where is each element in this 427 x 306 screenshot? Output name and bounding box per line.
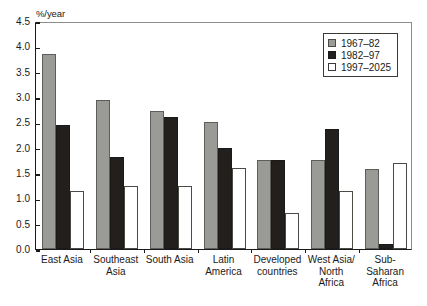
- x-axis-group-separator: [251, 249, 252, 253]
- bar: [311, 160, 325, 249]
- x-axis-category-label: South Asia: [143, 254, 197, 266]
- bar: [42, 54, 56, 249]
- bar: [325, 129, 339, 249]
- x-axis-category-label: Sub- Saharan Africa: [358, 254, 412, 289]
- legend-label: 1982–97: [341, 50, 380, 61]
- bar: [365, 169, 379, 249]
- bar: [379, 244, 393, 249]
- bar-chart-figure: %/year 0.00.51.01.52.02.53.03.54.04.5 Ea…: [0, 0, 427, 306]
- bar: [232, 168, 246, 249]
- legend-label: 1997–2025: [341, 62, 391, 73]
- y-axis-tick-mark: [36, 73, 40, 74]
- y-axis-unit-label: %/year: [36, 8, 65, 19]
- x-axis-category-label: East Asia: [35, 254, 89, 266]
- legend-item: 1967–82: [328, 37, 391, 49]
- x-axis-category-label: Developed countries: [250, 254, 304, 277]
- y-axis-tick-mark: [36, 174, 40, 175]
- bar: [110, 157, 124, 249]
- x-axis-group-separator: [359, 249, 360, 253]
- x-axis-category-label: Latin America: [197, 254, 251, 277]
- bar: [150, 111, 164, 249]
- bar: [285, 213, 299, 249]
- y-axis-tick-mark: [36, 22, 40, 23]
- bar: [178, 186, 192, 249]
- y-axis-tick-label: 4.0: [0, 41, 30, 52]
- y-axis-tick-label: 2.5: [0, 117, 30, 128]
- bar: [56, 125, 70, 249]
- y-axis-tick-mark: [36, 149, 40, 150]
- x-axis-group-separator: [144, 249, 145, 253]
- y-axis-tick-label: 4.5: [0, 16, 30, 27]
- bar: [393, 163, 407, 249]
- bar: [218, 148, 232, 249]
- bar: [96, 100, 110, 249]
- legend-swatch-1982-97-icon: [328, 51, 336, 59]
- y-axis-tick-label: 3.5: [0, 67, 30, 78]
- x-axis-category-label: West Asia/ North Africa: [304, 254, 358, 289]
- y-axis-tick-mark: [36, 48, 40, 49]
- y-axis-tick-mark: [36, 250, 40, 251]
- y-axis-tick-mark: [36, 225, 40, 226]
- bar: [339, 191, 353, 249]
- y-axis-tick-label: 1.5: [0, 168, 30, 179]
- y-axis-tick-label: 1.0: [0, 193, 30, 204]
- y-axis-tick-mark: [36, 98, 40, 99]
- y-axis-tick-label: 0.5: [0, 219, 30, 230]
- legend-label: 1967–82: [341, 38, 380, 49]
- y-axis-tick-mark: [36, 124, 40, 125]
- y-axis-tick-label: 2.0: [0, 143, 30, 154]
- legend-swatch-1997-2025-icon: [328, 63, 336, 71]
- x-axis-category-label: Southeast Asia: [89, 254, 143, 277]
- y-axis-tick-label: 3.0: [0, 92, 30, 103]
- x-axis-group-separator: [305, 249, 306, 253]
- legend-item: 1997–2025: [328, 61, 391, 73]
- y-axis-tick-label: 0.0: [0, 244, 30, 255]
- legend-item: 1982–97: [328, 49, 391, 61]
- bar: [257, 160, 271, 249]
- bar: [271, 160, 285, 249]
- x-axis-group-separator: [198, 249, 199, 253]
- bar: [124, 186, 138, 249]
- x-axis-group-separator: [90, 249, 91, 253]
- bar: [164, 117, 178, 249]
- bar: [204, 122, 218, 249]
- legend-swatch-1967-82-icon: [328, 39, 336, 47]
- chart-legend: 1967–82 1982–97 1997–2025: [323, 33, 398, 77]
- y-axis-tick-mark: [36, 200, 40, 201]
- bar: [70, 191, 84, 249]
